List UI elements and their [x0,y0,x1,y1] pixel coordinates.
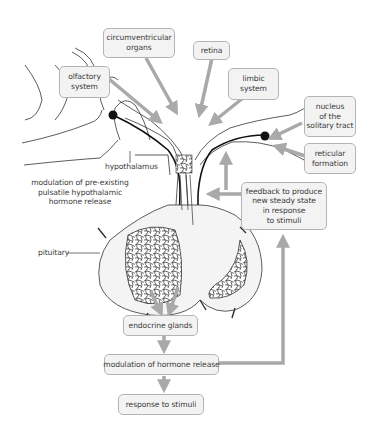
label-line: hormone release [30,197,130,207]
box-circumventricular-organs: circumventricular organs [103,28,175,58]
label-pituitary: pituitary [38,248,69,258]
box-line: feedback to produce [246,187,322,197]
box-line: in response [263,206,306,216]
box-line: system [71,82,98,92]
box-line: solitary tract [307,121,354,131]
box-olfactory-system: olfactory system [59,66,110,98]
box-line: circumventricular [107,33,172,43]
label-line: modulation of pre-existing [30,178,130,188]
box-nucleus-solitary-tract: nucleus of the solitary tract [304,96,356,137]
box-line: of the [319,112,341,122]
box-line: nucleus [316,102,345,112]
box-line: limbic [242,74,264,84]
box-response-to-stimuli: response to stimuli [118,394,204,415]
box-line: reticular [315,149,346,159]
box-line: organs [126,43,151,53]
olfactory-neuron-dot [109,111,118,120]
box-line: formation [312,159,348,169]
box-limbic-system: limbic system [228,68,279,100]
box-line: to stimuli [267,216,302,226]
box-reticular-formation: reticular formation [304,143,356,174]
label-hypothalamus: hypothalamus [105,162,158,172]
box-retina: retina [193,41,230,60]
label-modulation-preexisting: modulation of pre-existing pulsatile hyp… [30,178,130,207]
box-line: olfactory [68,72,101,82]
solitary-neuron-dot [261,132,270,141]
box-line: system [240,84,267,94]
box-line: endocrine glands [129,321,193,331]
box-modulation-hormone-release: modulation of hormone release [104,354,219,375]
box-endocrine-glands: endocrine glands [123,315,198,336]
box-line: new steady state [252,196,316,206]
box-line: response to stimuli [126,400,197,410]
box-feedback: feedback to produce new steady state in … [241,182,327,230]
label-line: pulsatile hypothalamic [30,188,130,198]
box-line: retina [201,46,223,56]
box-line: modulation of hormone release [103,360,219,370]
